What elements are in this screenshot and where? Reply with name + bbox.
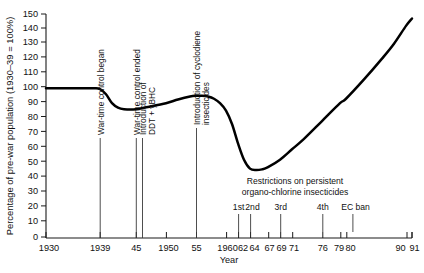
chart-container: 150 140 130 120 110 100 90 80 70 60 50 4… <box>0 0 424 273</box>
y-tick-label-140: 140 <box>23 23 38 33</box>
ddt-label-line2: DDT + γBHC <box>147 87 157 135</box>
marker-1st-label: 1st <box>233 202 245 212</box>
x-tick-label-62: 62 <box>238 243 248 253</box>
x-tick-label-67: 67 <box>264 243 274 253</box>
x-tick-label-69: 69 <box>276 243 286 253</box>
y-tick-label-60: 60 <box>28 142 38 152</box>
y-tick-label-40: 40 <box>28 171 38 181</box>
x-tick-label-1939: 1939 <box>90 243 110 253</box>
y-tick-label-130: 130 <box>23 37 38 47</box>
restrictions-label-line2: organo-chlorine insecticides <box>242 187 349 197</box>
x-tick-label-80: 80 <box>345 243 355 253</box>
restrictions-label-line1: Restrictions on persistent <box>247 176 344 186</box>
x-tick-label-55: 55 <box>191 243 201 253</box>
x-tick-label-1950: 1950 <box>158 243 178 253</box>
y-tick-label-150: 150 <box>23 9 38 19</box>
population-line-chart: 150 140 130 120 110 100 90 80 70 60 50 4… <box>0 0 424 273</box>
y-tick-label-30: 30 <box>28 186 38 196</box>
y-tick-label-120: 120 <box>23 52 38 62</box>
y-tick-label-70: 70 <box>28 127 38 137</box>
x-tick-label-1960: 1960 <box>217 243 237 253</box>
cyclodiene-label-line2: insecticides <box>201 82 211 125</box>
x-tick-label-71: 71 <box>289 243 299 253</box>
x-tick-label-91: 91 <box>409 243 419 253</box>
x-tick-label-79: 79 <box>334 243 344 253</box>
y-tick-label-20: 20 <box>28 201 38 211</box>
y-tick-label-0: 0 <box>33 232 38 242</box>
marker-2nd-label: 2nd <box>245 202 260 212</box>
y-tick-label-50: 50 <box>28 157 38 167</box>
x-tick-label-64: 64 <box>249 243 259 253</box>
x-axis-title: Year <box>220 255 239 265</box>
marker-4th-label: 4th <box>317 202 329 212</box>
y-tick-label-100: 100 <box>23 82 38 92</box>
y-tick-label-80: 80 <box>28 112 38 122</box>
y-tick-label-90: 90 <box>28 97 38 107</box>
war-began-label: War-time control began <box>96 49 106 135</box>
y-tick-label-10: 10 <box>28 216 38 226</box>
marker-3rd-label: 3rd <box>274 202 287 212</box>
x-tick-label-76: 76 <box>318 243 328 253</box>
chart-background <box>0 0 424 273</box>
y-axis-title: Percentage of pre-war population (1930–3… <box>4 17 15 236</box>
x-tick-label-45: 45 <box>131 243 141 253</box>
x-tick-label-90: 90 <box>395 243 405 253</box>
x-tick-label-1930: 1930 <box>39 243 59 253</box>
annotation-restrictions: Restrictions on persistent organo-chlori… <box>242 176 349 197</box>
y-tick-label-110: 110 <box>23 67 38 77</box>
marker-ec-ban-label: EC ban <box>341 202 370 212</box>
